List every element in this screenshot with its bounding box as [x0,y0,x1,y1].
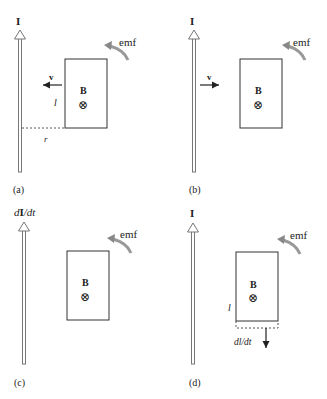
field-into-page-icon-a: ⊗ [78,98,88,112]
field-into-page-icon-c: ⊗ [80,290,90,304]
distance-label-a: r [44,134,48,144]
figure-canvas: I v l r B ⊗ emf (a) I v B ⊗ emf (b) [0,0,327,399]
velocity-label-b: v [207,72,212,82]
panel-d: I dl/dt l B ⊗ emf (d) [188,207,308,389]
field-into-page-icon-b: ⊗ [253,98,263,112]
emf-arrowhead-b [282,41,290,50]
emf-label-c: emf [120,228,137,240]
emf-arrow-icon-a [110,46,128,60]
caption-b: (b) [189,184,201,196]
emf-arrowhead-c [107,234,115,243]
length-label-d: l [228,302,231,313]
wire-b [189,30,200,172]
emf-label-a: emf [119,36,136,48]
panel-c: dI/dt B ⊗ emf (c) [14,206,137,389]
panel-a: I v l r B ⊗ emf (a) [13,15,136,196]
current-label-a: I [16,15,20,27]
panel-b: I v B ⊗ emf (b) [189,15,311,196]
emf-arrow-icon-c [113,239,131,253]
rate-label-d: dl/dt [234,337,252,347]
emf-label-b: emf [293,36,310,48]
wire-a [15,30,26,172]
caption-a: (a) [13,184,24,196]
field-into-page-icon-d: ⊗ [248,291,258,305]
emf-arrowhead-d [277,235,285,244]
length-label-a: l [54,97,57,108]
emf-arrow-icon-b [288,46,305,60]
emf-label-d: emf [290,229,307,241]
field-label-d: B [250,279,257,290]
field-label-a: B [80,85,87,96]
emf-arrowhead-a [104,41,112,50]
loop-extension-d [236,321,278,328]
field-label-c: B [82,277,89,288]
wire-c [19,222,30,364]
caption-d: (d) [189,377,201,389]
emf-arrow-icon-d [283,240,300,254]
wire-d [188,223,199,364]
velocity-label-a: v [49,72,54,82]
loop-d [236,252,278,321]
current-rate-label-c: dI/dt [14,206,36,218]
current-label-b: I [190,15,194,27]
current-label-d: I [190,207,194,219]
field-label-b: B [255,85,262,96]
caption-c: (c) [14,377,25,389]
